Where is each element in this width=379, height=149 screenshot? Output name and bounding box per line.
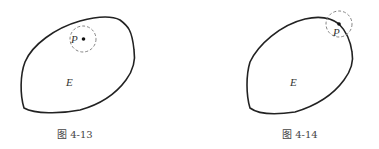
region-label: E [289, 76, 297, 88]
region-label: E [65, 76, 73, 88]
figure-4-13: P E 图 4-13 [21, 17, 134, 140]
point-label: P [332, 26, 340, 38]
figure-4-14: P E 图 4-14 [247, 11, 353, 140]
region-e-boundary [21, 17, 134, 113]
point-label: P [70, 33, 78, 45]
point-p-dot [82, 37, 86, 41]
figure-caption: 图 4-14 [282, 129, 318, 140]
figure-caption: 图 4-13 [57, 129, 93, 140]
diagram-canvas: P E 图 4-13 P E 图 4-14 [0, 0, 379, 149]
